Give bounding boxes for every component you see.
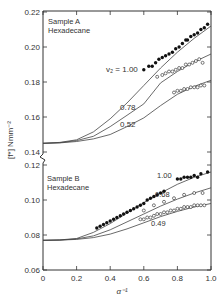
open-data-point [161, 74, 164, 77]
filled-data-point [142, 68, 145, 71]
x-tick-label: 0.8 [172, 274, 184, 283]
lower-annotation-line2: Hexadecane [47, 183, 89, 192]
open-data-point [176, 89, 179, 92]
y-tick-label: 0.18 [24, 78, 40, 87]
curve-label-a-052: 0.52 [120, 120, 136, 129]
upper-annotation-line2: Hexadecane [48, 26, 90, 35]
filled-data-point [102, 223, 105, 226]
open-data-point [152, 214, 155, 217]
filled-data-point [203, 26, 206, 29]
open-data-point [173, 197, 176, 200]
open-data-point [189, 206, 192, 209]
curve-label-a-078: 0.78 [120, 103, 136, 112]
y-tick-label: 0.06 [24, 266, 40, 275]
filled-data-point [167, 52, 170, 55]
filled-data-point [129, 209, 132, 212]
model-curve [43, 188, 211, 241]
open-data-point [183, 206, 186, 209]
open-data-point [193, 86, 196, 89]
lower-annotation-line1: Sample B [47, 174, 80, 183]
upper-annotation-line1: Sample A [48, 17, 80, 26]
open-data-point [201, 61, 204, 64]
open-data-point [159, 213, 162, 216]
y-tick-label: 0.20 [24, 43, 40, 52]
chart: 00.20.40.60.81.00.140.160.180.200.220.06… [0, 0, 222, 301]
open-data-point [178, 67, 181, 70]
x-axis-label: α⁻¹ [116, 287, 128, 296]
filled-data-point [182, 176, 185, 179]
open-data-point [142, 218, 145, 221]
open-data-point [156, 213, 159, 216]
open-data-point [166, 211, 169, 214]
x-tick-label: 0 [41, 274, 46, 283]
open-data-point [173, 91, 176, 94]
curve-label-b-068: 0.68 [155, 190, 170, 199]
filled-data-point [186, 176, 189, 179]
open-data-point [163, 200, 166, 203]
filled-data-point [139, 204, 142, 207]
open-data-point [193, 192, 196, 195]
open-data-point [173, 209, 176, 212]
filled-data-point [146, 198, 149, 201]
x-tick-label: 0.6 [138, 274, 150, 283]
y-tick-label: 0.14 [24, 148, 40, 157]
curve-label-a-100: v₂ = 1.00 [106, 65, 138, 74]
filled-data-point [157, 58, 160, 61]
open-data-point [181, 67, 184, 70]
filled-data-point [189, 176, 192, 179]
filled-data-point [98, 225, 101, 228]
y-tick-label: 0.08 [24, 231, 40, 240]
data-points [95, 23, 209, 230]
y-axis-label: [f*] Nmm⁻² [6, 121, 15, 159]
open-data-point [183, 88, 186, 91]
filled-data-point [151, 65, 154, 68]
x-tick-label: 0.2 [71, 274, 83, 283]
filled-data-point [112, 218, 115, 221]
open-data-point [146, 216, 149, 219]
filled-data-point [105, 221, 108, 224]
open-data-point [198, 58, 201, 61]
open-data-point [168, 70, 171, 73]
open-data-point [183, 193, 186, 196]
filled-data-point [164, 54, 167, 57]
filled-data-point [149, 197, 152, 200]
open-data-point [171, 70, 174, 73]
open-data-point [152, 204, 155, 207]
open-data-point [174, 68, 177, 71]
open-data-point [179, 207, 182, 210]
filled-data-point [199, 172, 202, 175]
filled-data-point [193, 174, 196, 177]
filled-data-point [206, 23, 209, 26]
filled-data-point [171, 51, 174, 54]
axis-break-icon [40, 154, 45, 163]
filled-data-point [186, 38, 189, 41]
axes-frame [40, 11, 211, 270]
y-tick-label: 0.16 [24, 113, 40, 122]
open-data-point [186, 88, 189, 91]
filled-data-point [176, 177, 179, 180]
x-tick-label: 1.0 [205, 274, 217, 283]
filled-data-point [189, 35, 192, 38]
filled-data-point [181, 42, 184, 45]
open-data-point [196, 86, 199, 89]
filled-data-point [132, 207, 135, 210]
open-data-point [163, 211, 166, 214]
open-data-point [179, 89, 182, 92]
open-data-point [203, 204, 206, 207]
open-data-point [193, 204, 196, 207]
filled-data-point [196, 31, 199, 34]
y-tick-label: 0.22 [24, 8, 40, 17]
curve-label-b-100: 1.00 [157, 171, 172, 180]
open-data-point [169, 209, 172, 212]
filled-data-point [119, 214, 122, 217]
open-data-point [186, 206, 189, 209]
filled-data-point [109, 219, 112, 222]
open-data-point [203, 84, 206, 87]
filled-data-point [196, 176, 199, 179]
y-tick-label: 0.10 [24, 196, 40, 205]
filled-data-point [125, 211, 128, 214]
open-data-point [194, 60, 197, 63]
filled-data-point [174, 47, 177, 50]
x-tick-label: 0.4 [105, 274, 117, 283]
open-data-point [196, 204, 199, 207]
